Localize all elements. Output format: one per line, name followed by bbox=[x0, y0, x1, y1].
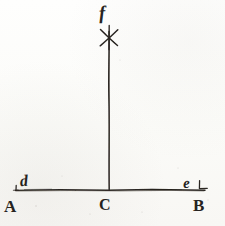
figure-canvas: f d e A C B bbox=[0, 0, 225, 226]
point-label-e: e bbox=[183, 176, 190, 191]
tick-mark-d-icon bbox=[13, 185, 18, 190]
point-label-a: A bbox=[4, 198, 16, 215]
baseline-segment-ab bbox=[16, 189, 206, 191]
point-label-d: d bbox=[19, 173, 28, 190]
perpendicular-segment-cf bbox=[109, 32, 110, 190]
point-label-f: f bbox=[99, 3, 106, 22]
point-label-b: B bbox=[193, 197, 205, 214]
tick-mark-e-icon bbox=[199, 181, 207, 189]
diagram-ink-layer bbox=[0, 0, 225, 226]
point-label-c: C bbox=[99, 197, 111, 213]
asterisk-mark-icon bbox=[100, 26, 118, 50]
